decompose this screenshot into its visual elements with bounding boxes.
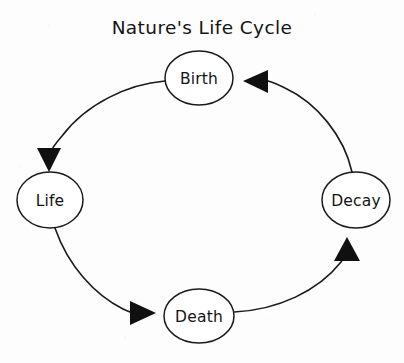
- diagram-canvas: Nature's Life Cycle Birth: [0, 0, 404, 363]
- arrowhead-into-life: [37, 148, 61, 172]
- edge-birth-to-life: [37, 81, 165, 172]
- edge-life-to-death-path: [55, 228, 133, 313]
- node-life-label: Life: [36, 192, 65, 210]
- edge-birth-to-life-path: [49, 81, 165, 155]
- arrowhead-into-decay: [334, 237, 360, 261]
- node-death[interactable]: Death: [164, 289, 234, 343]
- diagram-title: Nature's Life Cycle: [112, 17, 293, 38]
- node-life[interactable]: Life: [17, 172, 83, 228]
- edge-decay-to-birth-path: [268, 81, 352, 172]
- edge-death-to-decay: [234, 237, 360, 312]
- arrowhead-into-birth: [243, 70, 268, 93]
- life-cycle-diagram: Nature's Life Cycle Birth: [0, 0, 404, 363]
- node-decay[interactable]: Decay: [322, 172, 390, 228]
- node-birth[interactable]: Birth: [165, 51, 233, 105]
- node-birth-label: Birth: [180, 70, 218, 88]
- edge-death-to-decay-path: [234, 251, 347, 312]
- node-decay-label: Decay: [331, 192, 381, 210]
- node-death-label: Death: [175, 308, 223, 326]
- edge-life-to-death: [55, 228, 156, 325]
- edge-decay-to-birth: [243, 70, 352, 172]
- arrowhead-into-death: [130, 301, 156, 325]
